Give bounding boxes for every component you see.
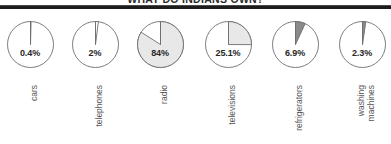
pie-cell-telephones[interactable]: 2%telephones — [63, 14, 127, 144]
pie-svg — [339, 21, 386, 68]
pie-value-label: 2.3% — [352, 48, 372, 58]
pie-cell-cars[interactable]: 0.4%cars — [0, 14, 62, 144]
pie-category-label: cars — [30, 85, 40, 101]
pie-value-label: 2% — [89, 48, 102, 58]
pie-svg — [72, 21, 119, 68]
pie-graphic — [339, 21, 386, 68]
pie-category-label: telephones — [95, 85, 105, 127]
title-divider — [0, 5, 391, 9]
pie-category-label-line: televisions — [228, 85, 238, 125]
pie-cell-washing-machines[interactable]: 2.3%washingmachines — [330, 14, 391, 144]
pie-category-label-line: telephones — [95, 85, 105, 127]
pie-category-label: radio — [160, 85, 170, 104]
pie-series-row: 0.4%cars2%telephones84%radio25.1%televis… — [0, 14, 391, 144]
pie-category-label-line: machines — [367, 85, 377, 121]
pie-chart-figure: WHAT DO INDIANS OWN? 0.4%cars2%telephone… — [0, 0, 391, 144]
pie-svg — [205, 21, 252, 68]
pie-graphic — [272, 21, 319, 68]
pie-category-label-line: refrigerators — [295, 85, 305, 131]
pie-value-label: 0.4% — [20, 48, 40, 58]
pie-category-label: televisions — [228, 85, 238, 125]
pie-graphic — [205, 21, 252, 68]
pie-svg — [272, 21, 319, 68]
pie-svg — [7, 21, 54, 68]
pie-graphic — [72, 21, 119, 68]
pie-category-label: washingmachines — [357, 85, 376, 121]
pie-graphic — [137, 21, 184, 68]
pie-value-label: 25.1% — [215, 48, 240, 58]
pie-value-slice — [228, 22, 251, 45]
pie-value-label: 84% — [151, 48, 169, 58]
pie-cell-radio[interactable]: 84%radio — [128, 14, 192, 144]
pie-svg — [137, 21, 184, 68]
pie-category-label-line: cars — [30, 85, 40, 101]
pie-value-label: 6.9% — [285, 48, 305, 58]
pie-category-label-line: radio — [160, 85, 170, 104]
pie-cell-refrigerators[interactable]: 6.9%refrigerators — [263, 14, 327, 144]
pie-category-label: refrigerators — [295, 85, 305, 131]
pie-cell-televisions[interactable]: 25.1%televisions — [196, 14, 260, 144]
pie-graphic — [7, 21, 54, 68]
